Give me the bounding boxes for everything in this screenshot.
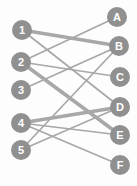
graph-canvas: 12345ABCDEF bbox=[0, 0, 137, 186]
node-F: F bbox=[110, 155, 130, 175]
node-label-4: 4 bbox=[18, 117, 25, 129]
node-C: C bbox=[110, 67, 130, 87]
node-1: 1 bbox=[12, 20, 32, 40]
node-2: 2 bbox=[11, 52, 31, 72]
node-5: 5 bbox=[11, 140, 31, 160]
edge-4-D bbox=[21, 107, 120, 123]
node-D: D bbox=[110, 97, 130, 117]
node-label-D: D bbox=[116, 101, 124, 113]
edge-1-D bbox=[22, 30, 120, 107]
node-label-E: E bbox=[116, 129, 123, 141]
node-label-B: B bbox=[115, 40, 123, 52]
bipartite-graph-diagram: 12345ABCDEF bbox=[0, 0, 137, 186]
node-label-C: C bbox=[116, 71, 124, 83]
node-A: A bbox=[107, 7, 127, 27]
node-label-F: F bbox=[117, 159, 124, 171]
node-E: E bbox=[110, 125, 130, 145]
node-label-3: 3 bbox=[18, 84, 24, 96]
node-B: B bbox=[109, 36, 129, 56]
edge-5-B bbox=[21, 46, 119, 150]
node-label-5: 5 bbox=[18, 144, 24, 156]
node-label-1: 1 bbox=[19, 24, 25, 36]
node-4: 4 bbox=[11, 113, 31, 133]
node-label-2: 2 bbox=[18, 56, 24, 68]
node-3: 3 bbox=[11, 80, 31, 100]
node-label-A: A bbox=[113, 11, 121, 23]
edge-3-B bbox=[21, 46, 119, 90]
